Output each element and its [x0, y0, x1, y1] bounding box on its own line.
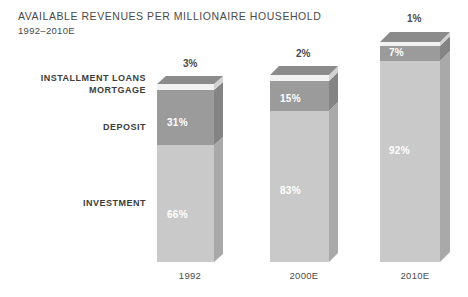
chart-title: AVAILABLE REVENUES PER MILLIONAIRE HOUSE… — [18, 10, 321, 22]
bar-2000e-side-investment — [329, 102, 338, 262]
bar-2010e-label-loans: 1% — [407, 13, 421, 24]
bar-2010e-top-lid — [380, 32, 450, 42]
bar-2010e-front-loans — [380, 42, 440, 46]
bar-2010e-label-deposit: 7% — [389, 47, 404, 58]
bar-2000e-label-investment: 83% — [280, 185, 301, 196]
xaxis-tick-1992: 1992 — [157, 270, 223, 281]
xaxis-tick-2000e: 2000E — [270, 270, 338, 281]
bar-2010e-side-investment — [440, 51, 450, 262]
bar-2000e-label-loans: 2% — [296, 48, 310, 59]
bar-2010e-front-investment — [380, 61, 440, 262]
chart-canvas: AVAILABLE REVENUES PER MILLIONAIRE HOUSE… — [0, 0, 468, 297]
chart-subtitle: 1992–2010E — [18, 25, 75, 36]
bar-1992-top-lid — [157, 76, 223, 84]
bar-1992[interactable]: 31% 66% 3% — [157, 84, 214, 262]
bar-1992-front-investment — [157, 145, 214, 262]
bar-2000e-front-loans — [270, 75, 329, 81]
bar-2000e-label-deposit: 15% — [280, 93, 301, 104]
legend-label-mortgage: MORTGAGE — [89, 84, 146, 96]
bar-2010e[interactable]: 7% 92% 1% — [380, 42, 440, 262]
bar-1992-3d-body — [157, 76, 223, 262]
bar-1992-front-loans — [157, 84, 214, 90]
bar-1992-label-loans: 3% — [183, 58, 197, 69]
xaxis-tick-2010e: 2010E — [380, 270, 450, 281]
bar-2010e-label-investment: 92% — [389, 145, 410, 156]
bar-2000e-top-lid — [270, 66, 338, 75]
legend-label-investment: INVESTMENT — [83, 197, 146, 209]
bar-1992-side-investment — [214, 137, 223, 262]
bar-1992-label-investment: 66% — [167, 209, 188, 220]
bar-1992-side-deposit — [214, 82, 223, 145]
legend-label-installment-loans: INSTALLMENT LOANS — [41, 72, 146, 84]
bar-1992-label-deposit: 31% — [167, 117, 188, 128]
bar-2000e[interactable]: 15% 83% 2% — [270, 75, 329, 262]
legend-label-deposit: DEPOSIT — [103, 121, 146, 133]
